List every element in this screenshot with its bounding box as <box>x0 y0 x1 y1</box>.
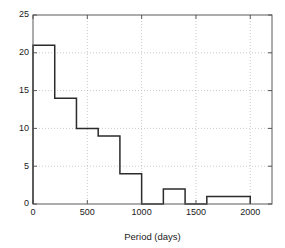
y-tick-label: 25 <box>19 9 29 19</box>
x-tick-label: 1000 <box>132 207 152 217</box>
x-tick-label: 1500 <box>186 207 206 217</box>
x-tick-label: 0 <box>30 207 35 217</box>
x-tick-label: 2000 <box>240 207 260 217</box>
period-histogram-chart: 0510152025 0500100015002000 Period (days… <box>0 0 285 248</box>
y-tick-label: 15 <box>19 85 29 95</box>
y-tick-label: 0 <box>24 198 29 208</box>
y-tick-label: 20 <box>19 47 29 57</box>
y-tick-label: 5 <box>24 161 29 171</box>
histogram-figure: 0510152025 0500100015002000 Period (days… <box>0 0 285 248</box>
y-tick-label: 10 <box>19 123 29 133</box>
x-axis-title: Period (days) <box>124 231 181 242</box>
x-tick-label: 500 <box>80 207 95 217</box>
